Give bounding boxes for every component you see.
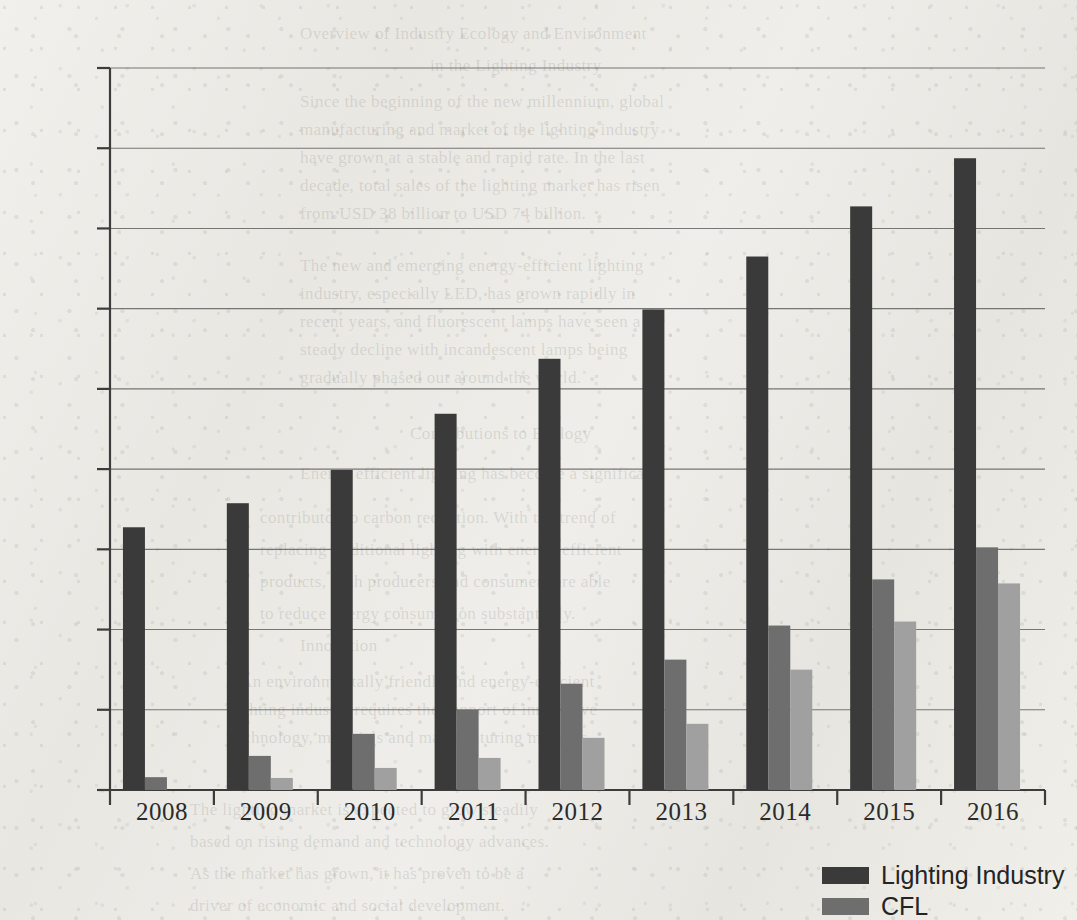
bar — [850, 206, 872, 790]
bar-group — [227, 503, 293, 790]
legend-label: Lighting Industry — [881, 861, 1064, 890]
legend-swatch — [822, 867, 869, 884]
bar — [664, 660, 686, 790]
legend-item: CFL — [822, 891, 1064, 920]
bar — [249, 756, 271, 790]
x-axis-tick-label: 2010 — [344, 798, 396, 826]
bar — [790, 670, 812, 790]
bar — [642, 309, 664, 790]
bar — [123, 527, 145, 790]
bar-group — [435, 414, 501, 790]
bar — [998, 583, 1020, 790]
x-axis-tick-label: 2011 — [448, 798, 499, 826]
bar — [954, 158, 976, 790]
bar — [227, 503, 249, 790]
bar — [561, 684, 583, 790]
x-axis-tick-label: 2014 — [759, 798, 811, 826]
legend-item: Lighting Industry — [822, 860, 1064, 891]
bar — [976, 547, 998, 790]
bar — [746, 257, 768, 790]
bar-groups — [123, 158, 1020, 790]
bar-group — [746, 257, 812, 790]
bar — [583, 738, 605, 790]
x-axis-tick-label: 2008 — [136, 798, 188, 826]
bar — [353, 734, 375, 790]
legend-swatch — [822, 898, 869, 915]
bar — [872, 579, 894, 790]
legend-label: CFL — [881, 892, 928, 920]
bar — [686, 724, 708, 790]
bar — [768, 626, 790, 790]
bar — [375, 768, 397, 790]
bar — [539, 359, 561, 790]
x-axis-tick-label: 2009 — [240, 798, 292, 826]
x-axis-tick-label: 2012 — [552, 798, 604, 826]
y-axis-tick-labels: 0200040006000800010000120001400016000180… — [0, 0, 110, 920]
bar-group — [954, 158, 1020, 790]
bar-group — [539, 359, 605, 790]
bar — [145, 777, 167, 790]
bar — [894, 622, 916, 790]
bar — [271, 778, 293, 790]
x-axis-tick-label: 2013 — [655, 798, 707, 826]
x-axis-tick-label: 2016 — [967, 798, 1019, 826]
grouped-bar-chart: 0200040006000800010000120001400016000180… — [0, 0, 1077, 920]
bar-group — [123, 527, 167, 790]
x-axis-tick-label: 2015 — [863, 798, 915, 826]
chart-legend: Lighting IndustryCFL — [822, 860, 1064, 920]
bar-group — [850, 206, 916, 790]
bar — [435, 414, 457, 790]
bar — [331, 470, 353, 790]
chart-canvas — [0, 0, 1077, 920]
bar — [457, 710, 479, 790]
bar — [479, 758, 501, 790]
